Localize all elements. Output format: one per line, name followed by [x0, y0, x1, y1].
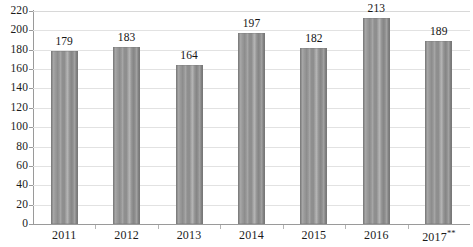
y-axis-tick-mark: [29, 30, 33, 31]
x-axis-category-label: 2017**: [408, 229, 470, 244]
y-axis-tick-mark: [29, 50, 33, 51]
bar-value-label: 197: [229, 18, 275, 30]
y-axis-tick-label: 120: [1, 102, 28, 114]
x-axis-line: [33, 224, 470, 225]
y-axis-tick-label: 20: [1, 199, 28, 211]
bar-value-label: 213: [353, 3, 399, 15]
y-axis-tick-label: 220: [1, 5, 28, 17]
y-axis-tick-mark: [29, 224, 33, 225]
footnote-marker: **: [447, 228, 456, 238]
x-axis-tick-mark: [95, 225, 96, 229]
bar-value-label: 182: [291, 33, 337, 45]
y-axis-tick-mark: [29, 205, 33, 206]
y-axis-tick-mark: [29, 185, 33, 186]
gridline: [33, 30, 470, 31]
y-axis-tick-label: 160: [1, 63, 28, 75]
y-axis-tick-mark: [29, 127, 33, 128]
y-axis-tick-label: 40: [1, 179, 28, 191]
x-axis-category-label: 2011: [33, 229, 95, 242]
x-axis-tick-mark: [283, 225, 284, 229]
bar-chart: 020406080100120140160180200220 179201118…: [0, 0, 473, 247]
bar-value-label: 164: [166, 50, 212, 62]
bar-value-label: 189: [416, 26, 462, 38]
bar: [238, 33, 265, 224]
y-axis-tick-label: 200: [1, 24, 28, 36]
y-axis-tick-label: 0: [1, 218, 28, 230]
y-axis-tick-label: 80: [1, 141, 28, 153]
y-axis-tick-labels: 020406080100120140160180200220: [0, 0, 28, 247]
y-axis-tick-label: 100: [1, 121, 28, 133]
bar: [425, 41, 452, 224]
bar: [51, 51, 78, 224]
y-axis-tick-mark: [29, 88, 33, 89]
y-axis-tick-mark: [29, 147, 33, 148]
bar: [300, 48, 327, 224]
x-axis-tick-mark: [220, 225, 221, 229]
y-axis-tick-label: 180: [1, 44, 28, 56]
y-axis-tick-mark: [29, 166, 33, 167]
y-axis-tick-mark: [29, 69, 33, 70]
bar-value-label: 179: [41, 36, 87, 48]
y-axis-tick-mark: [29, 11, 33, 12]
x-axis-category-label: 2012: [96, 229, 158, 242]
x-axis-tick-mark: [408, 225, 409, 229]
bar: [363, 18, 390, 224]
x-axis-category-label: 2013: [158, 229, 220, 242]
x-axis-tick-mark: [158, 225, 159, 229]
plot-area: [33, 11, 470, 224]
bar-value-label: 183: [104, 32, 150, 44]
bar: [176, 65, 203, 224]
gridline: [33, 11, 470, 12]
y-axis-tick-label: 140: [1, 82, 28, 94]
bar: [113, 47, 140, 224]
x-axis-tick-mark: [345, 225, 346, 229]
x-axis-category-label: 2016: [345, 229, 407, 242]
x-axis-category-label: 2015: [283, 229, 345, 242]
y-axis-tick-mark: [29, 108, 33, 109]
x-axis-category-label: 2014: [221, 229, 283, 242]
y-axis-tick-label: 60: [1, 160, 28, 172]
